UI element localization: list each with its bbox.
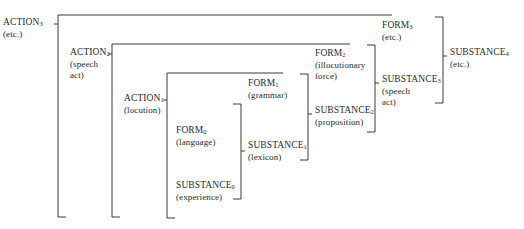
index: 0: [203, 128, 206, 135]
term: SUBSTANCE: [382, 74, 438, 84]
index: 1: [161, 96, 164, 103]
term: SUBSTANCE: [176, 180, 232, 190]
index: 1: [304, 143, 307, 150]
gloss: (etc.): [382, 32, 413, 43]
gloss: (illocutionary: [315, 60, 365, 71]
substance3-label: SUBSTANCE3 (speech act): [382, 74, 441, 108]
substance0-label: SUBSTANCE0 (experience): [176, 180, 235, 203]
gloss: (lexicon): [248, 152, 307, 163]
term: SUBSTANCE: [248, 140, 304, 150]
form3-label: FORM3 (etc.): [382, 20, 413, 43]
substance2-label: SUBSTANCE2 (proposition): [315, 105, 374, 128]
gloss: (grammar): [248, 90, 287, 101]
form2-label: FORM2 (illocutionary force): [315, 48, 365, 82]
index: 3: [409, 23, 412, 30]
action1-label: ACTION1 (locution): [124, 93, 164, 116]
gloss: (speech: [382, 86, 441, 97]
gloss: (language): [176, 137, 215, 148]
gloss: (experience): [176, 192, 235, 203]
gloss: act): [70, 70, 110, 81]
index: 2: [107, 50, 110, 57]
term: FORM: [248, 78, 275, 88]
term: SUBSTANCE: [450, 47, 506, 57]
gloss: (proposition): [315, 117, 374, 128]
index: 2: [342, 51, 345, 58]
gloss: (speech: [70, 59, 110, 70]
index: 3: [40, 20, 43, 27]
form0-label: FORM0 (language): [176, 125, 215, 148]
action2-label: ACTION2 (speech act): [70, 47, 110, 81]
index: 2: [371, 108, 374, 115]
gloss: (etc.): [450, 59, 509, 70]
term: ACTION: [124, 93, 161, 103]
term: FORM: [382, 20, 409, 30]
substance4-label: SUBSTANCE4 (etc.): [450, 47, 509, 70]
term: SUBSTANCE: [315, 105, 371, 115]
substance1-label: SUBSTANCE1 (lexicon): [248, 140, 307, 163]
form1-label: FORM1 (grammar): [248, 78, 287, 101]
term: FORM: [315, 48, 342, 58]
term: ACTION: [3, 17, 40, 27]
gloss: (locution): [124, 105, 164, 116]
gloss: force): [315, 71, 365, 82]
gloss: act): [382, 97, 441, 108]
action3-label: ACTION3 (etc.): [3, 17, 43, 40]
term: FORM: [176, 125, 203, 135]
index: 4: [506, 50, 509, 57]
index: 0: [232, 183, 235, 190]
bracket-lines: [0, 0, 524, 229]
index: 3: [438, 77, 441, 84]
gloss: (etc.): [3, 29, 43, 40]
index: 1: [275, 81, 278, 88]
term: ACTION: [70, 47, 107, 57]
